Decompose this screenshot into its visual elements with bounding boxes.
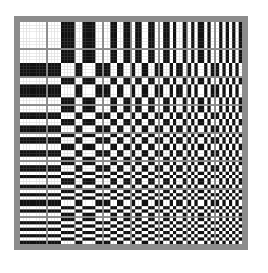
basis-image [76, 78, 102, 104]
basis-image [216, 78, 242, 104]
basis-image [188, 106, 214, 132]
basis-image [104, 134, 130, 160]
basis-image [188, 78, 214, 104]
basis-image [48, 218, 74, 244]
basis-image [48, 78, 74, 104]
basis-image [132, 78, 158, 104]
basis-image [20, 190, 46, 216]
basis-image [132, 22, 158, 48]
basis-grid-frame [14, 16, 248, 250]
basis-image [20, 78, 46, 104]
basis-image [216, 190, 242, 216]
basis-image [160, 190, 186, 216]
basis-image [104, 78, 130, 104]
basis-image [48, 106, 74, 132]
basis-image [188, 22, 214, 48]
basis-image [160, 50, 186, 76]
basis-image [76, 218, 102, 244]
basis-image [160, 218, 186, 244]
basis-image [76, 134, 102, 160]
basis-image [104, 190, 130, 216]
basis-image [20, 22, 46, 48]
basis-image [76, 190, 102, 216]
basis-image [104, 218, 130, 244]
basis-image [132, 218, 158, 244]
basis-image [160, 106, 186, 132]
basis-image [104, 106, 130, 132]
basis-image [48, 22, 74, 48]
basis-image [132, 134, 158, 160]
basis-image [132, 106, 158, 132]
basis-image [216, 218, 242, 244]
basis-image [20, 50, 46, 76]
basis-image [104, 162, 130, 188]
basis-image [104, 22, 130, 48]
basis-image [188, 190, 214, 216]
basis-image [20, 218, 46, 244]
basis-image [160, 22, 186, 48]
basis-image [76, 162, 102, 188]
basis-image [216, 50, 242, 76]
basis-image [160, 134, 186, 160]
basis-image [20, 162, 46, 188]
basis-image [216, 134, 242, 160]
basis-image [76, 22, 102, 48]
basis-image [48, 134, 74, 160]
basis-image [216, 106, 242, 132]
basis-image [216, 22, 242, 48]
basis-image [132, 162, 158, 188]
basis-image [20, 106, 46, 132]
basis-image [188, 134, 214, 160]
basis-image [188, 50, 214, 76]
basis-image [160, 78, 186, 104]
basis-image [188, 162, 214, 188]
basis-image [76, 50, 102, 76]
basis-image [48, 162, 74, 188]
basis-image [20, 134, 46, 160]
basis-image [48, 190, 74, 216]
basis-image [216, 162, 242, 188]
basis-image [76, 106, 102, 132]
basis-image [160, 162, 186, 188]
basis-image [132, 190, 158, 216]
basis-image [48, 50, 74, 76]
basis-image [104, 50, 130, 76]
walsh-basis-grid [20, 22, 242, 244]
basis-image [188, 218, 214, 244]
basis-image [132, 50, 158, 76]
